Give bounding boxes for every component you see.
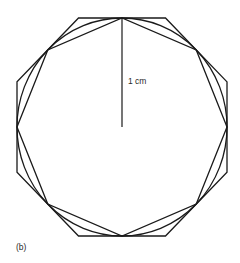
radius-label: 1 cm bbox=[128, 77, 146, 86]
octagon-circle-diagram bbox=[0, 0, 240, 263]
figure-caption: (b) bbox=[16, 243, 26, 252]
